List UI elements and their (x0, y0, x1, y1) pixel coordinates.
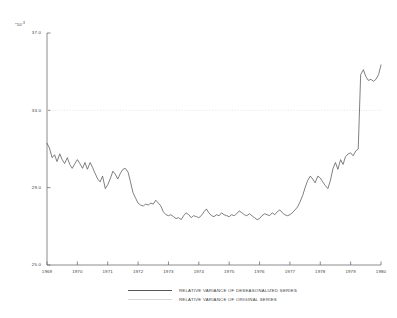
legend-label-deseasonalized: RELATIVE VARIANCE OF DESEASONALIZED SERI… (179, 288, 297, 293)
x-tick-label: 1971 (95, 269, 121, 274)
series-line-0 (47, 65, 381, 220)
y-tick-label: 29.0 (15, 185, 41, 190)
chart-legend: RELATIVE VARIANCE OF DESEASONALIZED SERI… (128, 286, 378, 304)
x-tick-label: 1970 (64, 269, 90, 274)
legend-item-deseasonalized: RELATIVE VARIANCE OF DESEASONALIZED SERI… (128, 286, 378, 295)
x-tick-label: 1980 (368, 269, 394, 274)
y-tick-label: 37.0 (15, 30, 41, 35)
x-tick-label: 1975 (216, 269, 242, 274)
y-tick-label: 25.0 (15, 262, 41, 267)
x-tick-marks (47, 262, 381, 266)
legend-item-original: RELATIVE VARIANCE OF ORIGINAL SERIES (128, 295, 378, 304)
x-tick-label: 1977 (277, 269, 303, 274)
x-tick-label: 1969 (34, 269, 60, 274)
x-tick-label: 1972 (125, 269, 151, 274)
axes-frame (47, 33, 381, 265)
x-tick-label: 1979 (338, 269, 364, 274)
legend-line-swatch-faint (128, 299, 172, 300)
x-tick-label: 1976 (247, 269, 273, 274)
y-tick-label: 33.0 (15, 108, 41, 113)
x-tick-label: 1973 (155, 269, 181, 274)
x-tick-label: 1978 (307, 269, 333, 274)
x-tick-label: 1974 (186, 269, 212, 274)
legend-line-swatch-solid (128, 290, 172, 291)
legend-label-original: RELATIVE VARIANCE OF ORIGINAL SERIES (179, 297, 277, 302)
chart-figure: *10-3 37.033.029.025.0 19691970197119721… (0, 0, 397, 318)
data-series-group (47, 65, 381, 220)
